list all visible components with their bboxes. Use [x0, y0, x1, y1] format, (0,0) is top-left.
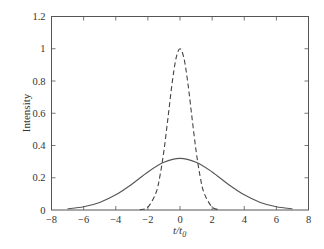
x-tick-label: −8: [46, 214, 57, 225]
x-tick-label: −6: [78, 214, 89, 225]
plot-area: −8−6−4−202468 00.20.40.60.811.2: [32, 11, 311, 225]
y-tick-label: 0: [40, 205, 45, 216]
y-tick-label: 1.2: [32, 11, 45, 22]
x-axis-label: t/t0: [173, 224, 186, 239]
y-tick-label: 0.8: [32, 76, 45, 87]
x-tick-label: −4: [110, 214, 122, 225]
x-tick-label: 2: [210, 214, 215, 225]
y-tick-label: 0.4: [32, 140, 46, 151]
y-tick-label: 0.2: [32, 172, 45, 183]
x-tick-label: −2: [142, 214, 153, 225]
x-tick-label: 6: [274, 214, 279, 225]
x-axis-ticks: −8−6−4−202468: [46, 17, 311, 226]
intensity-chart: −8−6−4−202468 00.20.40.60.811.2 Intensit…: [0, 0, 324, 249]
y-axis-ticks: 00.20.40.60.811.2: [32, 11, 308, 216]
x-tick-label: 8: [306, 214, 311, 225]
x-axis-label-subscript: 0: [182, 230, 186, 239]
plot-frame: [52, 17, 309, 211]
y-axis-label: Intensity: [20, 93, 32, 132]
solid-curve: [68, 158, 293, 208]
dashed-curve: [140, 49, 220, 210]
y-tick-label: 1: [40, 43, 45, 54]
x-tick-label: 4: [242, 214, 248, 225]
y-tick-label: 0.6: [32, 108, 45, 119]
